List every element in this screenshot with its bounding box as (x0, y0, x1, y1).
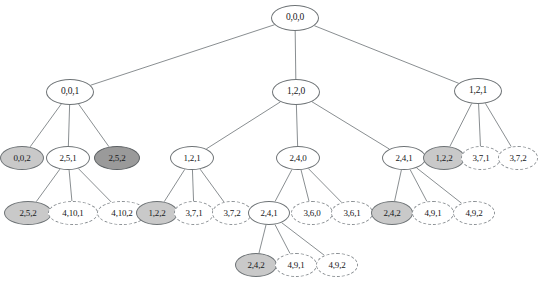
tree-node-label: 1,2,1 (183, 154, 200, 163)
tree-node-label: 4,9,2 (465, 209, 482, 218)
tree-node-layer: 0,0,00,0,11,2,01,2,10,0,22,5,12,5,21,2,1… (0, 0, 538, 290)
tree-node-label: 2,4,2 (383, 209, 400, 218)
tree-node-label: 4,9,1 (424, 209, 441, 218)
tree-node[interactable]: 4,9,2 (316, 253, 358, 277)
tree-node[interactable]: 3,7,2 (498, 146, 538, 170)
tree-node[interactable]: 0,0,0 (271, 5, 319, 31)
tree-node[interactable]: 3,6,0 (291, 201, 333, 225)
tree-node-label: 2,5,2 (19, 209, 36, 218)
tree-node-label: 0,0,1 (61, 87, 79, 97)
tree-node[interactable]: 2,4,2 (235, 253, 277, 277)
tree-node-label: 2,4,2 (247, 261, 264, 270)
tree-node-label: 2,4,1 (395, 154, 412, 163)
tree-node[interactable]: 1,2,2 (423, 146, 465, 170)
tree-node[interactable]: 0,0,2 (0, 146, 44, 170)
tree-node[interactable]: 2,5,2 (4, 201, 52, 225)
tree-node-label: 4,9,1 (287, 261, 304, 270)
tree-node[interactable]: 3,7,1 (461, 146, 501, 170)
tree-node[interactable]: 0,0,1 (46, 79, 94, 105)
tree-node-label: 3,7,2 (223, 209, 240, 218)
tree-node-label: 1,2,2 (435, 154, 452, 163)
tree-node[interactable]: 4,10,1 (48, 201, 98, 225)
tree-node[interactable]: 1,2,2 (136, 201, 178, 225)
tree-node-label: 0,0,2 (13, 154, 30, 163)
tree-node[interactable]: 2,4,1 (382, 146, 426, 170)
tree-node-label: 4,10,2 (111, 209, 132, 218)
tree-node[interactable]: 1,2,1 (170, 146, 214, 170)
tree-node[interactable]: 1,2,1 (454, 78, 502, 104)
tree-node-label: 2,5,2 (108, 154, 125, 163)
tree-node-label: 3,6,0 (303, 209, 320, 218)
tree-node[interactable]: 2,5,2 (94, 146, 140, 170)
tree-node-label: 2,5,1 (59, 154, 76, 163)
tree-node[interactable]: 4,9,1 (275, 253, 317, 277)
tree-node-label: 1,2,2 (148, 209, 165, 218)
tree-node[interactable]: 2,4,2 (371, 201, 413, 225)
tree-node-label: 4,10,1 (62, 209, 83, 218)
tree-node-label: 3,7,1 (185, 209, 202, 218)
tree-node-label: 3,7,1 (472, 154, 489, 163)
tree-node-label: 3,6,1 (343, 209, 360, 218)
tree-node[interactable]: 2,5,1 (46, 146, 90, 170)
tree-node[interactable]: 2,4,0 (276, 146, 320, 170)
tree-node[interactable]: 3,6,1 (331, 201, 373, 225)
tree-node-label: 2,4,1 (260, 209, 277, 218)
tree-node-label: 1,2,0 (287, 87, 305, 97)
tree-node-label: 0,0,0 (286, 13, 304, 23)
tree-node-label: 2,4,0 (289, 154, 306, 163)
tree-diagram: 0,0,00,0,11,2,01,2,10,0,22,5,12,5,21,2,1… (0, 0, 538, 290)
tree-node[interactable]: 3,7,1 (174, 201, 214, 225)
tree-node[interactable]: 4,9,2 (453, 201, 495, 225)
tree-node-label: 4,9,2 (328, 261, 345, 270)
tree-node[interactable]: 3,7,2 (212, 201, 252, 225)
tree-node-label: 1,2,1 (469, 86, 487, 96)
tree-node[interactable]: 2,4,1 (248, 201, 290, 225)
tree-node[interactable]: 1,2,0 (272, 79, 320, 105)
tree-node[interactable]: 4,9,1 (412, 201, 454, 225)
tree-node-label: 3,7,2 (509, 154, 526, 163)
